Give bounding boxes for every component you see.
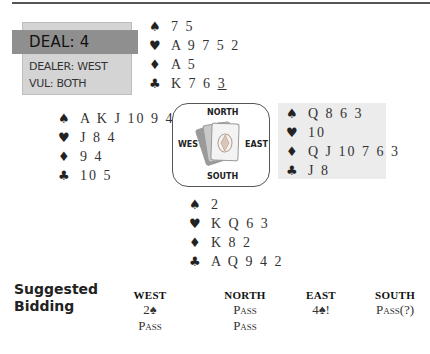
compass-north: NORTH <box>207 108 238 117</box>
west-hearts: J 8 4 <box>80 128 116 147</box>
south-clubs: A Q 9 4 2 <box>211 252 283 271</box>
heart-icon: ♥ <box>58 128 80 147</box>
diamond-icon: ♦ <box>58 147 80 166</box>
north-hand: ♠7 5 ♥A 9 7 5 2 ♦A 5 ♣K 7 6 3 <box>149 17 240 93</box>
south-diamonds: K 8 2 <box>211 233 252 252</box>
heart-icon: ♥ <box>189 214 211 233</box>
club-icon: ♣ <box>58 166 80 185</box>
east-clubs: J 8 <box>308 161 330 180</box>
compass-south: SOUTH <box>207 172 238 181</box>
spade-icon: ♠ <box>149 17 171 36</box>
east-spades: Q 8 6 3 <box>308 104 364 123</box>
west-spades: A K J 10 9 4 <box>80 109 174 128</box>
bid-column-west: WEST 2♠ Pass <box>105 288 195 334</box>
north-clubs-main: K 7 6 <box>171 76 218 91</box>
card-deck-icon <box>198 119 244 167</box>
dealer-label: DEALER: WEST <box>29 60 107 73</box>
bid-column-south: SOUTH Pass(?) <box>350 288 430 318</box>
north-spades: 7 5 <box>171 17 195 36</box>
north-clubs-underlined-card: 3 <box>218 76 227 91</box>
deal-number: DEAL: 4 <box>29 33 89 51</box>
north-hearts: A 9 7 5 2 <box>171 36 240 55</box>
heart-icon: ♥ <box>149 36 171 55</box>
east-diamonds: Q J 10 7 6 3 <box>308 142 400 161</box>
spade-icon: ♠ <box>189 195 211 214</box>
west-clubs: 10 5 <box>80 166 113 185</box>
heart-icon: ♥ <box>286 123 308 142</box>
south-hearts: K Q 6 3 <box>211 214 270 233</box>
spade-icon: ♠ <box>286 104 308 123</box>
east-hearts: 10 <box>308 123 326 142</box>
diamond-icon: ♦ <box>286 142 308 161</box>
west-hand: ♠A K J 10 9 4 ♥J 8 4 ♦9 4 ♣10 5 <box>58 109 174 185</box>
west-diamonds: 9 4 <box>80 147 104 166</box>
bid-cell: 2♠ <box>105 302 195 318</box>
bid-cell: Pass(?) <box>350 302 430 318</box>
south-hand: ♠2 ♥K Q 6 3 ♦K 8 2 ♣A Q 9 4 2 <box>189 195 283 271</box>
bid-cell: Pass <box>105 318 195 334</box>
north-diamonds: A 5 <box>171 55 197 74</box>
diamond-icon: ♦ <box>149 55 171 74</box>
top-rule <box>12 2 430 4</box>
bidding-title: Suggested Bidding <box>14 281 98 315</box>
bid-header-south: SOUTH <box>350 288 430 302</box>
club-icon: ♣ <box>189 252 211 271</box>
bid-cell: Pass <box>200 318 290 334</box>
compass-east: EAST <box>245 140 268 149</box>
diamond-icon: ♦ <box>189 233 211 252</box>
bid-header-west: WEST <box>105 288 195 302</box>
vulnerability-label: VUL: BOTH <box>29 77 86 90</box>
club-icon: ♣ <box>286 161 308 180</box>
north-clubs: K 7 6 3 <box>171 74 227 93</box>
spade-icon: ♠ <box>58 109 80 128</box>
east-hand: ♠Q 8 6 3 ♥10 ♦Q J 10 7 6 3 ♣J 8 <box>286 104 400 180</box>
club-icon: ♣ <box>149 74 171 93</box>
south-spades: 2 <box>211 195 220 214</box>
